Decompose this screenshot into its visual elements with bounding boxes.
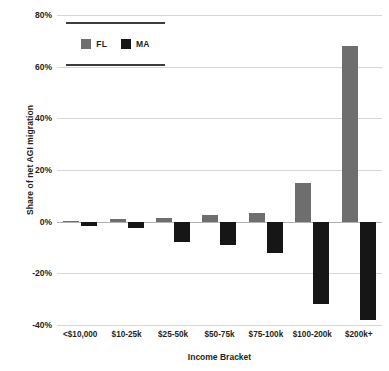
- y-axis-tick-label: 0%: [40, 217, 52, 227]
- chart-container: Share of net AGI migration 80%60%40%20%0…: [0, 0, 389, 371]
- bar-fl: [249, 213, 265, 222]
- bar-fl: [156, 218, 172, 222]
- x-axis-tick-label: $100-200k: [293, 330, 332, 339]
- bar-ma: [220, 222, 236, 245]
- legend: FLMA: [66, 22, 165, 66]
- x-axis-title: Income Bracket: [57, 352, 382, 362]
- legend-item-fl: FL: [81, 39, 107, 49]
- legend-label: MA: [136, 39, 150, 49]
- bar-ma: [81, 222, 97, 226]
- y-axis-tick-label: 80%: [35, 10, 52, 20]
- gridline: [57, 325, 382, 326]
- bar-ma: [313, 222, 329, 305]
- bar-fl: [202, 215, 218, 221]
- legend-item-ma: MA: [121, 39, 150, 49]
- bar-fl: [295, 183, 311, 222]
- legend-label: FL: [96, 39, 107, 49]
- y-axis-title: Share of net AGI migration: [25, 70, 35, 250]
- x-axis-tick-labels: <$10,000$10-25k$25-50k$50-75k$75-100k$10…: [57, 330, 382, 344]
- bar-group: [196, 15, 242, 325]
- bar-ma: [128, 222, 144, 228]
- x-axis-tick-label: $50-75k: [204, 330, 234, 339]
- y-axis-tick-label: -20%: [32, 268, 52, 278]
- y-axis-tick-label: 40%: [35, 113, 52, 123]
- x-axis-tick-label: $200k+: [345, 330, 373, 339]
- bar-ma: [267, 222, 283, 253]
- x-axis-tick-label: $25-50k: [158, 330, 188, 339]
- legend-swatch-icon: [121, 39, 131, 49]
- x-axis-tick-label: $75-100k: [249, 330, 284, 339]
- bar-ma: [174, 222, 190, 243]
- y-axis-tick-label: -40%: [32, 320, 52, 330]
- legend-swatch-icon: [81, 39, 91, 49]
- bar-fl: [63, 221, 79, 222]
- bar-ma: [360, 222, 376, 320]
- bar-group: [336, 15, 382, 325]
- bar-group: [243, 15, 289, 325]
- bar-fl: [110, 219, 126, 222]
- x-axis-tick-label: <$10,000: [63, 330, 97, 339]
- legend-items: FLMA: [66, 22, 165, 66]
- x-axis-tick-label: $10-25k: [112, 330, 142, 339]
- bar-group: [289, 15, 335, 325]
- y-axis-tick-label: 20%: [35, 165, 52, 175]
- bar-fl: [342, 46, 358, 222]
- y-axis-tick-label: 60%: [35, 62, 52, 72]
